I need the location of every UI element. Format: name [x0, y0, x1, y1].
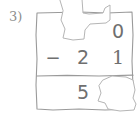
subtrahend-ones-digit: 1 — [107, 46, 129, 68]
worksheet-problem-item: 3) 0 − 2 1 5 — [0, 0, 140, 117]
difference-tens-digit: 5 — [72, 81, 94, 103]
minus-operator-symbol: − — [43, 47, 63, 69]
subtrahend-tens-digit: 2 — [72, 46, 94, 68]
subtraction-rule-line — [37, 75, 133, 76]
minuend-ones-digit: 0 — [107, 20, 129, 42]
item-number-label: 3) — [9, 7, 33, 27]
